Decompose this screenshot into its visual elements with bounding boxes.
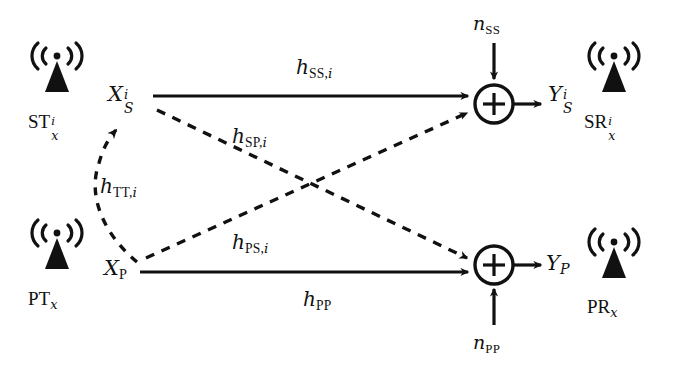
antenna-icon-secondary-tx: [24, 38, 90, 94]
node-label-primary-tx: PTx: [28, 289, 57, 312]
antenna-icon-primary-rx: [581, 224, 647, 280]
noise-label-secondary: nSS: [473, 14, 500, 37]
channel-label-htt: hTT,i: [100, 176, 137, 200]
signal-label-xs: XiS: [108, 84, 123, 105]
node-label-secondary-tx: STix: [28, 112, 50, 131]
channel-label-hpp: hPP: [303, 289, 331, 313]
antenna-icon-primary-tx: [24, 215, 90, 271]
signal-label-yp: YP: [546, 253, 569, 277]
link-secondary-to-primary: [157, 110, 467, 258]
node-label-primary-rx: PRx: [587, 297, 618, 320]
noise-label-primary: nPP: [473, 333, 500, 356]
signal-label-xp: XP: [104, 258, 127, 282]
channel-label-hss: hSS,i: [296, 57, 332, 81]
signal-label-ys: YiS: [548, 84, 562, 105]
node-label-secondary-rx: SRix: [584, 112, 607, 131]
antenna-icon-secondary-rx: [581, 38, 647, 94]
channel-label-hps: hPS,i: [232, 232, 268, 256]
figure-canvas: STix PTx SRix: [0, 0, 675, 372]
channel-label-hsp: hSP,i: [232, 126, 267, 150]
